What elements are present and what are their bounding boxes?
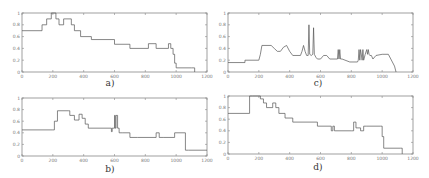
chart-c: 02004006008001000120000.20.40.60.81	[214, 0, 429, 80]
chart-a-plot: 02004006008001000120000.20.40.60.81	[0, 0, 215, 80]
y-tick-label: 1	[17, 96, 20, 101]
y-tick-label: 1	[17, 11, 20, 16]
y-tick-label: 0.2	[219, 58, 226, 63]
y-tick-label: 0	[17, 154, 20, 159]
x-tick-label: 600	[110, 158, 119, 163]
x-tick-label: 600	[316, 156, 325, 161]
series-line	[228, 25, 396, 72]
x-tick-label: 400	[285, 156, 294, 161]
x-tick-label: 1000	[376, 156, 388, 161]
y-tick-label: 0.8	[219, 105, 226, 110]
chart-c-plot: 02004006008001000120000.20.40.60.81	[214, 0, 429, 80]
caption-b: b)	[100, 164, 120, 174]
x-tick-label: 0	[227, 74, 230, 79]
axes-box	[228, 13, 413, 72]
y-tick-label: 0.4	[219, 46, 226, 51]
caption-d: d)	[308, 162, 328, 172]
x-tick-label: 800	[141, 74, 150, 79]
x-tick-label: 1200	[201, 74, 213, 79]
axes-box	[228, 96, 413, 154]
x-tick-label: 1000	[170, 74, 182, 79]
x-tick-label: 1200	[407, 74, 419, 79]
y-tick-label: 0.6	[219, 117, 226, 122]
x-tick-label: 400	[285, 74, 294, 79]
chart-b: 02004006008001000120000.20.40.60.81	[0, 86, 215, 166]
y-tick-label: 0	[223, 152, 226, 157]
y-tick-label: 1	[223, 94, 226, 99]
y-tick-label: 0.8	[13, 22, 20, 27]
y-tick-label: 0.8	[219, 22, 226, 27]
y-tick-label: 0.2	[13, 142, 20, 147]
x-tick-label: 1000	[170, 158, 182, 163]
x-tick-label: 1000	[376, 74, 388, 79]
series-line	[22, 111, 207, 150]
x-tick-label: 200	[255, 74, 264, 79]
y-tick-label: 0.6	[219, 34, 226, 39]
x-tick-label: 0	[21, 74, 24, 79]
x-tick-label: 200	[49, 74, 58, 79]
y-tick-label: 0.2	[13, 58, 20, 63]
y-tick-label: 0.2	[219, 140, 226, 145]
x-tick-label: 800	[141, 158, 150, 163]
y-tick-label: 0.6	[13, 119, 20, 124]
y-tick-label: 0.4	[219, 128, 226, 133]
y-tick-label: 0.4	[13, 130, 20, 135]
chart-d: 02004006008001000120000.20.40.60.81	[214, 84, 429, 164]
x-tick-label: 800	[347, 74, 356, 79]
y-tick-label: 0	[17, 70, 20, 75]
x-tick-label: 400	[79, 74, 88, 79]
x-tick-label: 200	[49, 158, 58, 163]
y-tick-label: 1	[223, 11, 226, 16]
y-tick-label: 0	[223, 70, 226, 75]
chart-b-plot: 02004006008001000120000.20.40.60.81	[0, 86, 215, 166]
chart-a: 02004006008001000120000.20.40.60.81	[0, 0, 215, 80]
series-line	[22, 13, 195, 72]
x-tick-label: 400	[79, 158, 88, 163]
x-tick-label: 1200	[407, 156, 419, 161]
y-tick-label: 0.8	[13, 107, 20, 112]
y-tick-label: 0.6	[13, 34, 20, 39]
x-tick-label: 1200	[201, 158, 213, 163]
y-tick-label: 0.4	[13, 46, 20, 51]
x-tick-label: 200	[255, 156, 264, 161]
x-tick-label: 0	[21, 158, 24, 163]
x-tick-label: 0	[227, 156, 230, 161]
x-tick-label: 800	[347, 156, 356, 161]
chart-d-plot: 02004006008001000120000.20.40.60.81	[214, 84, 429, 164]
series-line	[228, 96, 402, 154]
